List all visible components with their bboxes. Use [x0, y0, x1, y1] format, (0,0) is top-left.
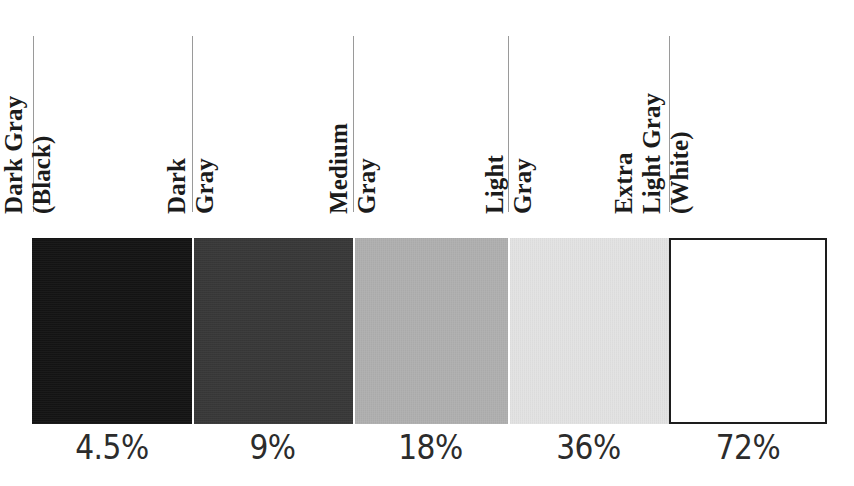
label-line: (Black) — [28, 96, 56, 214]
percent-label-extra-dark-gray: 4.5% — [40, 428, 184, 478]
label-line: Gray — [191, 158, 219, 214]
column-label-dark-gray: Dark Gray — [163, 158, 219, 214]
swatch-extra-dark-gray — [32, 238, 192, 424]
label-line: Medium — [325, 123, 353, 214]
column-label-medium-gray: Medium Gray — [325, 123, 381, 214]
swatch-extra-light-gray — [669, 238, 827, 424]
halftone-texture — [510, 238, 669, 424]
label-line: Light Gray — [638, 93, 666, 214]
column-label-extra-dark-gray: Extra Dark Gray (Black) — [0, 96, 56, 214]
label-line: Light — [481, 155, 509, 214]
label-line: Gray — [509, 155, 537, 214]
percent-label-dark-gray: 9% — [200, 428, 345, 478]
column-label-light-gray: Light Gray — [481, 155, 537, 214]
grayscale-value-scale-figure: Extra Dark Gray (Black) Dark Gray Medium… — [0, 0, 854, 486]
column-label-extra-light-gray: Extra Light Gray (White) — [610, 93, 694, 214]
halftone-texture — [32, 238, 192, 424]
halftone-texture — [355, 238, 508, 424]
percentage-row: 4.5% 9% 18% 36% 72% — [32, 428, 827, 478]
swatch-dark-gray — [192, 238, 353, 424]
label-line: Extra — [610, 93, 638, 214]
label-line: (White) — [666, 93, 694, 214]
label-line: Dark Gray — [0, 96, 28, 214]
percent-label-light-gray: 36% — [516, 428, 661, 478]
halftone-texture — [194, 238, 353, 424]
column-header-band: Extra Dark Gray (Black) Dark Gray Medium… — [0, 0, 854, 238]
percent-label-extra-light-gray: 72% — [677, 428, 819, 478]
label-line: Dark — [163, 158, 191, 214]
label-line: Gray — [353, 123, 381, 214]
swatch-medium-gray — [353, 238, 508, 424]
percent-label-medium-gray: 18% — [361, 428, 501, 478]
swatch-strip — [32, 238, 827, 424]
swatch-light-gray — [508, 238, 669, 424]
